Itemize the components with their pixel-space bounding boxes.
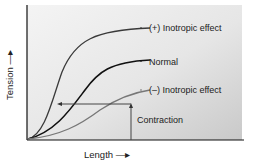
x-axis-label: Length —▸ [84,149,130,160]
contraction-label: Contraction [137,115,183,125]
legend-negative-inotropic: (–) Inotropic effect [149,85,221,95]
y-axis-label: Tension —▸ [4,50,15,100]
legend-normal: Normal [149,57,178,67]
legend-positive-inotropic: (+) Inotropic effect [149,23,222,33]
